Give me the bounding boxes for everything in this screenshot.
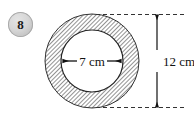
annulus-diagram: 7 cm 12 cm	[0, 0, 194, 118]
geometry-figure: 8	[0, 0, 194, 118]
outer-diameter-dimension: 12 cm	[157, 15, 194, 107]
outer-diameter-label: 12 cm	[163, 54, 194, 69]
inner-diameter-label: 7 cm	[79, 54, 105, 69]
